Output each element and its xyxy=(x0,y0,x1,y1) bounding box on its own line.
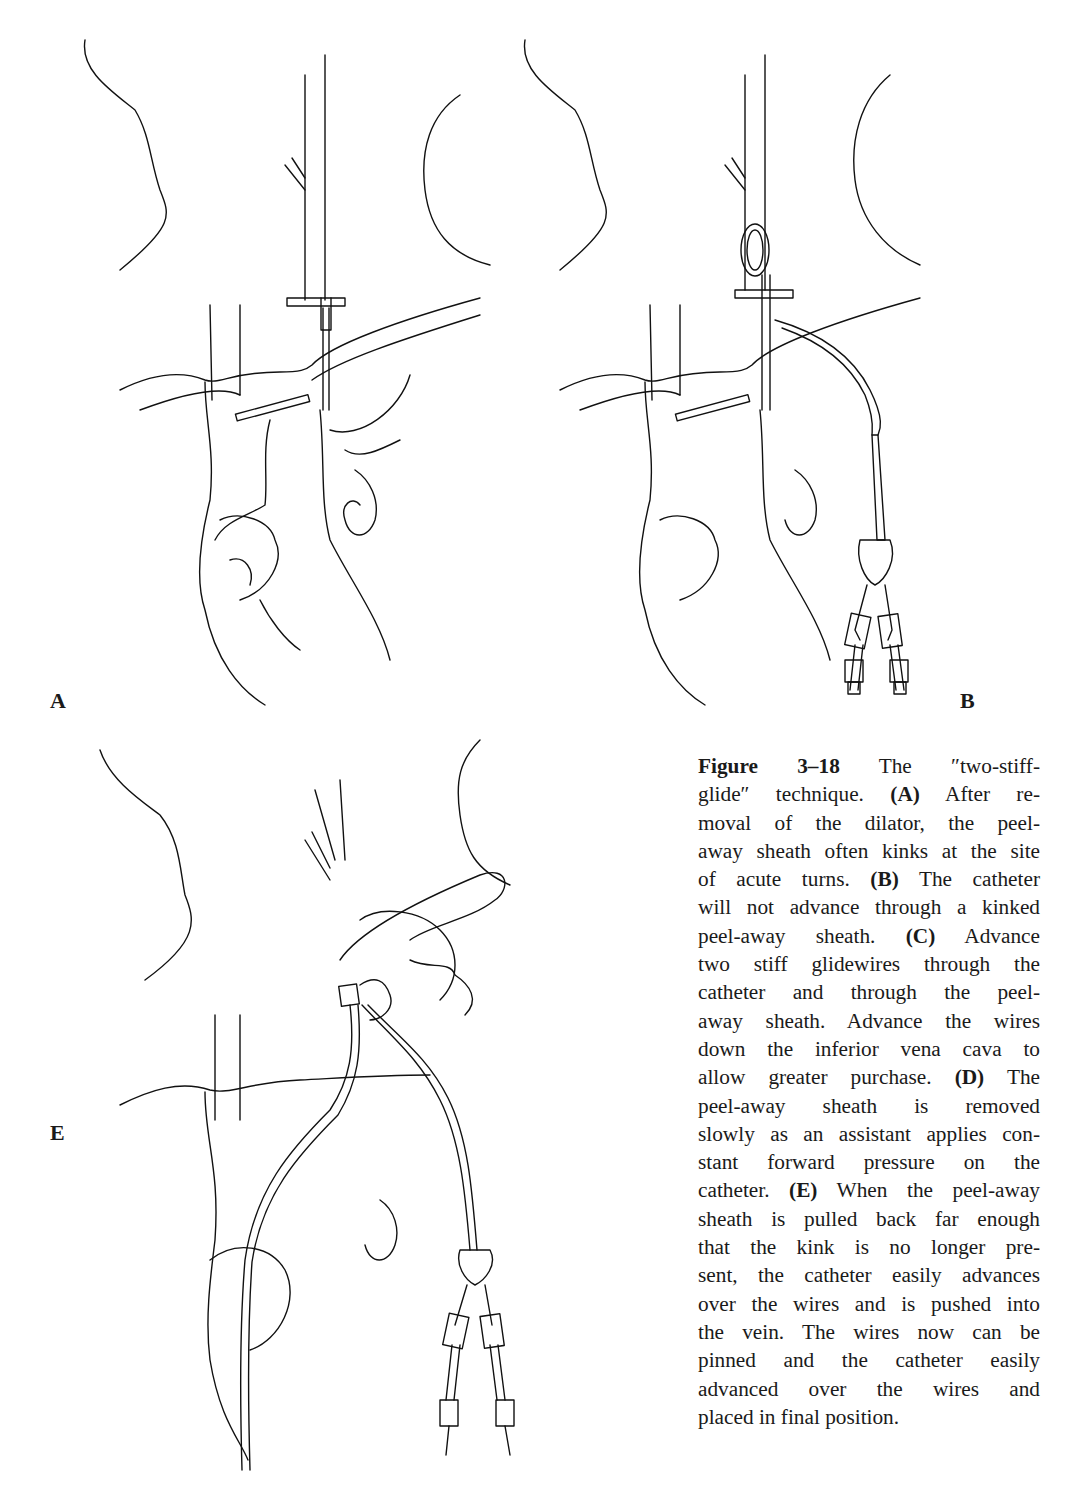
caption-text: down the inferior vena cava to xyxy=(698,1037,1040,1061)
panel-label-a: A xyxy=(50,690,66,712)
caption-text: glide″ technique. xyxy=(698,782,890,806)
caption-text: moval of the dilator, the peel- xyxy=(698,811,1040,835)
caption-bold-text: (E) xyxy=(789,1178,817,1202)
caption-text: slowly as an assistant applies con- xyxy=(698,1122,1040,1146)
caption-text: away sheath often kinks at the site xyxy=(698,839,1040,863)
caption-line: pinned and the catheter easily xyxy=(698,1346,1040,1374)
caption-text: catheter. xyxy=(698,1178,789,1202)
caption-text: pinned and the catheter easily xyxy=(698,1348,1040,1372)
panel-label-e: E xyxy=(50,1122,65,1144)
caption-line: Figure 3–18 The ″two-stiff- xyxy=(698,752,1040,780)
figure-panel-e: E xyxy=(0,720,600,1486)
caption-line: down the inferior vena cava to xyxy=(698,1035,1040,1063)
caption-line: moval of the dilator, the peel- xyxy=(698,809,1040,837)
caption-bold-text: (A) xyxy=(890,782,920,806)
caption-text: will not advance through a kinked xyxy=(698,895,1040,919)
caption-line: two stiff glidewires through the xyxy=(698,950,1040,978)
caption-line: peel-away sheath. (C) Advance xyxy=(698,922,1040,950)
caption-text: catheter and through the peel- xyxy=(698,980,1040,1004)
caption-text: stant forward pressure on the xyxy=(698,1150,1040,1174)
caption-line: away sheath. Advance the wires xyxy=(698,1007,1040,1035)
panel-label-b: B xyxy=(960,690,975,712)
caption-text: allow greater purchase. xyxy=(698,1065,955,1089)
caption-text: After re- xyxy=(920,782,1040,806)
figure-caption: Figure 3–18 The ″two-stiff-glide″ techni… xyxy=(698,752,1040,1431)
caption-text: the vein. The wires now can be xyxy=(698,1320,1040,1344)
caption-line: slowly as an assistant applies con- xyxy=(698,1120,1040,1148)
caption-bold-text: Figure 3–18 xyxy=(698,754,840,778)
caption-text: away sheath. Advance the wires xyxy=(698,1009,1040,1033)
caption-text: sheath is pulled back far enough xyxy=(698,1207,1040,1231)
caption-line: peel-away sheath is removed xyxy=(698,1092,1040,1120)
caption-line: allow greater purchase. (D) The xyxy=(698,1063,1040,1091)
caption-text: peel-away sheath is removed xyxy=(698,1094,1040,1118)
caption-text: of acute turns. xyxy=(698,867,870,891)
caption-text: sent, the catheter easily advances xyxy=(698,1263,1040,1287)
caption-text: placed in final position. xyxy=(698,1405,899,1429)
illustration-sheath-kink xyxy=(0,0,540,720)
caption-bold-text: (D) xyxy=(955,1065,985,1089)
caption-text: advanced over the wires and xyxy=(698,1377,1040,1401)
caption-line: catheter and through the peel- xyxy=(698,978,1040,1006)
caption-line: catheter. (E) When the peel-away xyxy=(698,1176,1040,1204)
caption-text: two stiff glidewires through the xyxy=(698,952,1040,976)
caption-text: Advance xyxy=(935,924,1040,948)
caption-text: The catheter xyxy=(899,867,1040,891)
caption-bold-text: (C) xyxy=(906,924,936,948)
caption-line: over the wires and is pushed into xyxy=(698,1290,1040,1318)
caption-line: sent, the catheter easily advances xyxy=(698,1261,1040,1289)
caption-text: The xyxy=(984,1065,1040,1089)
caption-line: of acute turns. (B) The catheter xyxy=(698,865,1040,893)
caption-text: that the kink is no longer pre- xyxy=(698,1235,1040,1259)
caption-line: sheath is pulled back far enough xyxy=(698,1205,1040,1233)
figure-panel-a: A xyxy=(0,0,540,720)
caption-text: When the peel-away xyxy=(817,1178,1040,1202)
caption-line: glide″ technique. (A) After re- xyxy=(698,780,1040,808)
caption-line: the vein. The wires now can be xyxy=(698,1318,1040,1346)
caption-text: over the wires and is pushed into xyxy=(698,1292,1040,1316)
caption-line: placed in final position. xyxy=(698,1403,1040,1431)
figure-panel-b: B xyxy=(530,0,1073,720)
caption-line: will not advance through a kinked xyxy=(698,893,1040,921)
caption-line: advanced over the wires and xyxy=(698,1375,1040,1403)
caption-line: away sheath often kinks at the site xyxy=(698,837,1040,865)
caption-bold-text: (B) xyxy=(870,867,898,891)
caption-line: that the kink is no longer pre- xyxy=(698,1233,1040,1261)
caption-text: peel-away sheath. xyxy=(698,924,906,948)
illustration-catheter-blocked xyxy=(530,0,1073,720)
illustration-catheter-advanced xyxy=(0,720,600,1486)
caption-line: stant forward pressure on the xyxy=(698,1148,1040,1176)
caption-text: The ″two-stiff- xyxy=(840,754,1040,778)
